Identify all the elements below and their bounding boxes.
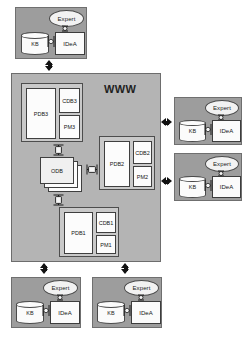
www-label: WWW — [104, 83, 136, 95]
kb-idea-connector-icon — [123, 304, 131, 317]
connector-odb-to-group3-icon — [52, 144, 65, 156]
kb-idea-connector-icon — [204, 179, 212, 192]
idea-box: IDeA — [55, 32, 85, 55]
expert-idea-connector-icon — [137, 294, 145, 301]
idea-box: IDeA — [212, 120, 241, 142]
db-group-3: PDB3 CDB3 PM3 — [21, 83, 83, 142]
pdb3-cell: PDB3 — [26, 88, 56, 139]
pm1-cell: PM1 — [96, 235, 116, 254]
connector-www-to-bottom-left-icon — [40, 263, 49, 274]
connector-odb-to-group1-icon — [52, 194, 65, 206]
odb-stack: ODB — [40, 157, 84, 193]
expert-idea-connector-icon — [61, 25, 69, 32]
agent-node-right-upper: Expert KB IDeA — [174, 97, 242, 145]
kb-idea-connector-icon — [42, 304, 50, 317]
idea-box: IDeA — [131, 301, 161, 324]
agent-node-top: Expert KB IDeA — [15, 7, 87, 59]
expert-idea-connector-icon — [56, 294, 64, 301]
kb-idea-connector-icon — [47, 35, 55, 48]
connector-www-to-right-lower-icon — [161, 177, 172, 186]
agent-node-bottom-right: Expert KB IDeA — [92, 277, 162, 328]
db-group-1: PDB1 CDB1 PM1 — [59, 207, 119, 257]
connector-odb-to-group2-icon — [86, 163, 98, 176]
kb-cylinder: KB — [179, 176, 206, 198]
kb-idea-connector-icon — [204, 123, 212, 136]
idea-box: IDeA — [212, 176, 241, 198]
kb-cylinder: KB — [97, 301, 125, 324]
cdb2-cell: CDB2 — [133, 141, 152, 164]
kb-label: KB — [107, 310, 114, 316]
connector-www-to-right-upper-icon — [161, 118, 172, 127]
kb-label: KB — [31, 41, 38, 47]
connector-top-to-www-icon — [45, 60, 54, 71]
diagram-canvas: Expert KB IDeA WWW PDB3 — [0, 0, 247, 339]
kb-label: KB — [189, 184, 196, 190]
kb-label: KB — [26, 310, 33, 316]
kb-label: KB — [189, 128, 196, 134]
db-group-2: PDB2 CDB2 PM2 — [99, 136, 155, 190]
connector-www-to-bottom-right-icon — [121, 263, 130, 274]
idea-box: IDeA — [50, 301, 80, 324]
kb-cylinder: KB — [179, 120, 206, 142]
cdb1-cell: CDB1 — [96, 212, 116, 233]
cdb3-cell: CDB3 — [59, 88, 80, 113]
odb-front: ODB — [40, 157, 74, 184]
kb-cylinder: KB — [21, 32, 49, 55]
pm2-cell: PM2 — [133, 166, 152, 187]
pdb1-cell: PDB1 — [64, 212, 93, 254]
pm3-cell: PM3 — [59, 115, 80, 139]
pdb2-cell: PDB2 — [104, 141, 130, 187]
agent-node-right-lower: Expert KB IDeA — [174, 153, 242, 201]
agent-node-bottom-left: Expert KB IDeA — [11, 277, 81, 328]
kb-cylinder: KB — [16, 301, 44, 324]
